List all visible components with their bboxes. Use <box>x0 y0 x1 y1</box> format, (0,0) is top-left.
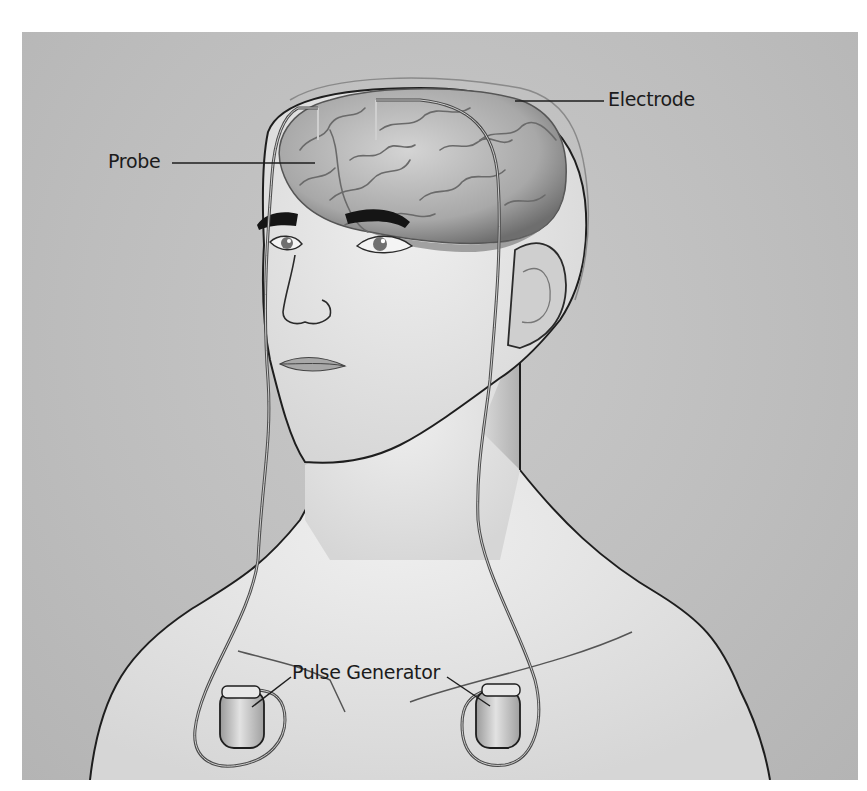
pulse-generator-right <box>476 684 520 748</box>
electrode-label: Electrode <box>608 88 695 110</box>
ear <box>508 243 566 348</box>
pulse-generator-left <box>220 686 264 748</box>
pulse-generator-label: Pulse Generator <box>292 661 440 683</box>
illustration-panel: Electrode Probe Pulse Generator <box>22 32 858 780</box>
probe-label: Probe <box>108 150 160 172</box>
